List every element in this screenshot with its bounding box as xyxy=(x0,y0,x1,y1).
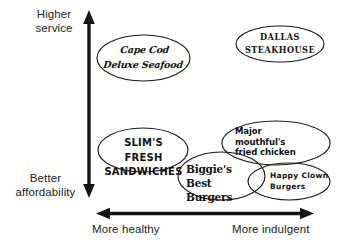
perceptual-map-chart: Higher service Better affordability More… xyxy=(0,0,349,251)
bubble-ellipse-dallas[interactable] xyxy=(236,26,324,62)
bubble-ellipse-cape-cod[interactable] xyxy=(97,35,190,81)
horizontal-axis-arrowhead-right xyxy=(300,208,314,219)
chart-svg xyxy=(0,0,349,251)
axis-label-more-indulgent: More indulgent xyxy=(232,223,309,237)
horizontal-axis-arrow xyxy=(96,208,314,219)
bubble-ellipse-major-mouthful[interactable] xyxy=(222,121,330,165)
axis-label-more-healthy: More healthy xyxy=(92,223,160,237)
bubble-ellipse-slims[interactable] xyxy=(98,128,188,172)
vertical-axis-arrow xyxy=(83,10,95,198)
horizontal-axis-arrowhead-left xyxy=(96,208,110,219)
axis-label-higher-service: Higher service xyxy=(21,8,87,35)
bubble-ellipse-happy-clown[interactable] xyxy=(248,163,330,200)
axis-label-better-affordability: Better affordability xyxy=(4,172,87,199)
bubble-ellipse-biggies[interactable] xyxy=(178,152,265,200)
